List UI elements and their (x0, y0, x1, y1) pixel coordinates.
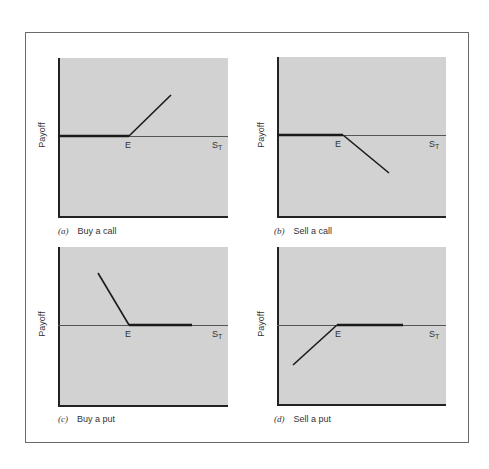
plot-sell-call: E ST (277, 57, 446, 218)
x-axis-label: ST (212, 329, 222, 340)
payoff-line (277, 57, 446, 218)
plot-buy-call: E ST (58, 58, 228, 218)
plot-buy-put: E ST (58, 247, 228, 407)
x-axis-label: ST (429, 329, 439, 340)
payoff-line (58, 58, 228, 218)
y-axis-label: Payoff (37, 311, 47, 336)
payoff-line (58, 247, 228, 407)
strike-label: E (335, 139, 341, 149)
x-axis-label: ST (212, 140, 222, 151)
caption-d: (d)Sell a put (274, 414, 331, 424)
strike-label: E (125, 140, 131, 150)
payoff-line (277, 247, 446, 406)
y-axis-label: Payoff (256, 311, 266, 336)
caption-b: (b)Sell a call (274, 226, 332, 236)
y-axis-label: Payoff (37, 122, 47, 147)
strike-label: E (125, 329, 131, 339)
caption-c: (c)Buy a put (58, 414, 115, 424)
caption-a: (a)Buy a call (58, 226, 117, 236)
y-axis-label: Payoff (256, 122, 266, 147)
plot-sell-put: E ST (277, 247, 446, 406)
strike-label: E (335, 329, 341, 339)
x-axis-label: ST (429, 139, 439, 150)
